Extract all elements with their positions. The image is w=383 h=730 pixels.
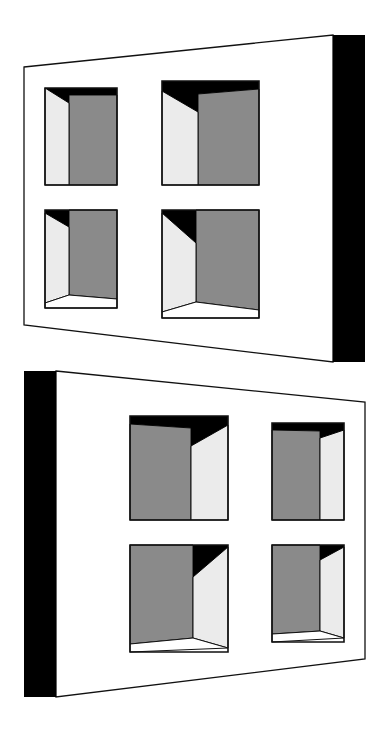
window-back-wall bbox=[69, 95, 117, 185]
window-lower-top-right bbox=[272, 423, 344, 520]
wall-side-edge bbox=[333, 35, 365, 362]
window-side-wall bbox=[45, 88, 69, 185]
window-lower-bottom-left bbox=[130, 545, 228, 652]
window-bottom-left bbox=[45, 210, 117, 308]
window-side-wall bbox=[45, 213, 69, 303]
bottom-panel bbox=[24, 371, 365, 697]
window-bottom-right bbox=[162, 210, 259, 318]
window-back-wall bbox=[196, 210, 259, 310]
window-back-wall bbox=[130, 424, 191, 520]
window-back-wall bbox=[272, 545, 320, 634]
window-back-wall bbox=[69, 210, 117, 299]
window-back-wall bbox=[130, 545, 193, 644]
window-side-wall bbox=[320, 547, 344, 638]
window-lower-bottom-right bbox=[272, 545, 344, 642]
wall-panels-illustration bbox=[0, 0, 383, 730]
window-top-right bbox=[162, 81, 259, 185]
wall-side-edge bbox=[24, 371, 56, 697]
window-lower-top-left bbox=[130, 416, 228, 520]
window-back-wall bbox=[198, 89, 259, 185]
window-top-left bbox=[45, 88, 117, 185]
top-panel bbox=[24, 35, 365, 362]
window-side-wall bbox=[320, 430, 344, 520]
window-back-wall bbox=[272, 430, 320, 520]
